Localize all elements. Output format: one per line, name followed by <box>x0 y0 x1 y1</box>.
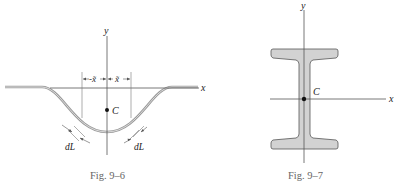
fig-9-6: x y -x̃ x̃ C <box>5 25 206 181</box>
svg-text:-x̃: -x̃ <box>89 74 97 84</box>
centroid-label: C <box>112 105 119 116</box>
svg-text:dL: dL <box>65 142 75 152</box>
fig-9-7-caption: Fig. 9–7 <box>288 170 323 181</box>
centroid-point <box>302 97 306 101</box>
wire-curve <box>5 87 198 132</box>
y-axis-label: y <box>300 0 306 11</box>
dL-marker-right: dL <box>124 126 147 152</box>
x-axis-label: x <box>388 93 394 104</box>
figure-canvas: x y -x̃ x̃ C <box>0 0 403 186</box>
svg-text:x̃: x̃ <box>114 74 120 84</box>
centroid-point <box>105 108 109 112</box>
fig-9-7: x y C Fig. 9–7 <box>270 0 394 181</box>
centroid-label: C <box>313 86 320 97</box>
dimension-neg-xtilde: -x̃ <box>83 74 106 84</box>
fig-9-6-caption: Fig. 9–6 <box>90 170 125 181</box>
dimension-pos-xtilde: x̃ <box>108 74 130 84</box>
x-axis-label: x <box>200 82 206 93</box>
y-axis-label: y <box>103 25 109 36</box>
dL-marker-left: dL <box>62 125 90 152</box>
svg-text:dL: dL <box>134 142 144 152</box>
